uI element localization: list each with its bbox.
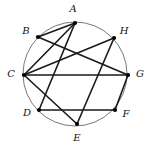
vertex-point-e (75, 122, 79, 126)
vertex-label-f: F (123, 109, 130, 119)
vertex-label-d: D (23, 108, 31, 118)
vertex-point-f (113, 108, 117, 112)
vertex-point-g (126, 73, 130, 77)
vertex-label-c: C (7, 69, 15, 79)
vertex-label-e: E (73, 133, 80, 143)
vertex-point-b (36, 35, 40, 39)
vertex-label-g: G (136, 69, 144, 79)
chord-fg (115, 75, 128, 110)
vertex-point-a (73, 21, 77, 25)
vertex-label-a: A (69, 4, 76, 14)
vertex-point-c (22, 73, 26, 77)
vertex-point-h (112, 36, 116, 40)
circle-chord-diagram: ABCDEFGH (0, 0, 149, 146)
vertex-point-d (37, 108, 41, 112)
diagram-canvas (0, 0, 149, 146)
chord-bg (38, 37, 128, 75)
vertex-label-b: B (22, 26, 29, 36)
vertex-label-h: H (120, 26, 129, 36)
